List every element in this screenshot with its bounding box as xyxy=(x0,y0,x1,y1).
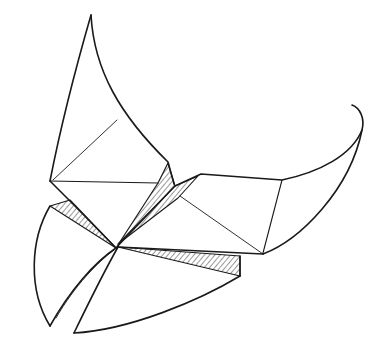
lower-right-wing xyxy=(74,247,240,333)
origami-drawing xyxy=(0,0,389,347)
drawing-canvas: Pen-and-ink line drawing of an origami b… xyxy=(0,0,389,347)
lower-left-wing xyxy=(34,200,116,326)
right-wing xyxy=(118,105,363,254)
upper-left-wing xyxy=(50,15,174,203)
center-folds xyxy=(72,163,198,248)
